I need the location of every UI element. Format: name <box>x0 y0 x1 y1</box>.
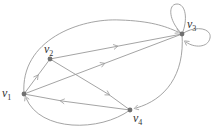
graph-diagram <box>0 0 217 134</box>
label-v2: v2 <box>44 43 53 58</box>
label-v1: v1 <box>2 87 11 102</box>
edge-arc-v4-v1 <box>26 98 130 125</box>
node-v3 <box>180 32 185 37</box>
label-v4: v4 <box>133 112 142 127</box>
edge-arc-v3-v4 <box>136 34 182 108</box>
label-v3: v3 <box>187 18 196 33</box>
node-v4 <box>128 108 133 113</box>
node-v1 <box>22 92 27 97</box>
edge-v2-v3 <box>50 34 182 59</box>
edge-v2-v4 <box>50 59 108 94</box>
edge-v4-v1-tail <box>24 94 62 101</box>
